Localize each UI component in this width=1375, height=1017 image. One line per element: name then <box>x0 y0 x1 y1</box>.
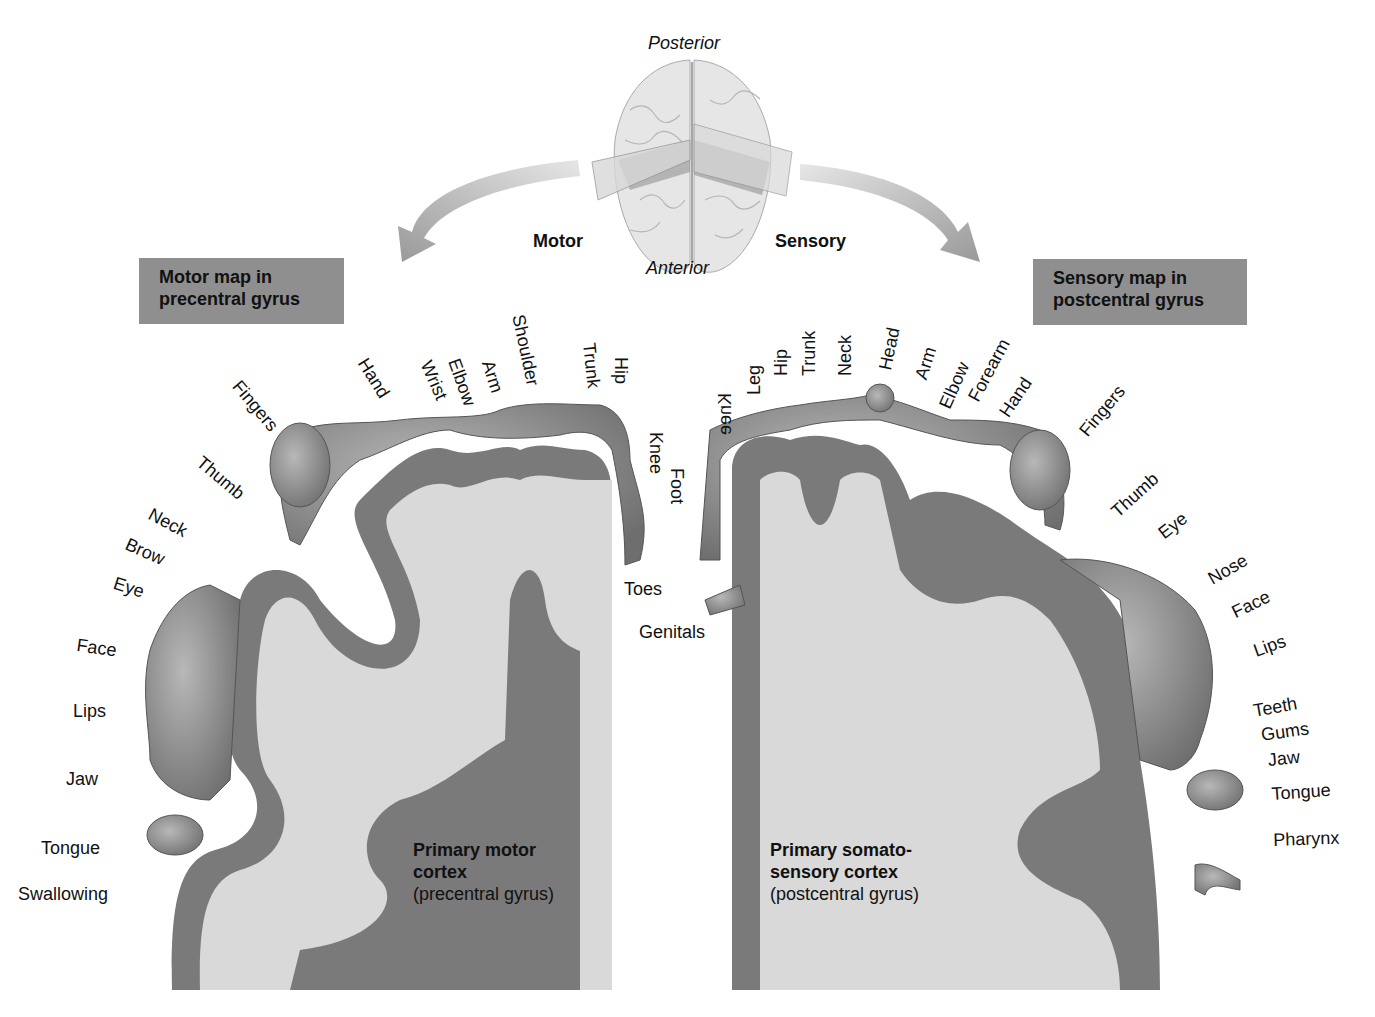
sensory-map-title-box: Sensory map in postcentral gyrus <box>1033 259 1247 325</box>
motor-label-swallowing: Swallowing <box>18 885 108 903</box>
motor-map-title-line2: precentral gyrus <box>159 288 330 310</box>
primary-somatosensory-cortex-label: Primary somato- sensory cortex (postcent… <box>770 839 919 905</box>
sensory-cortex-subtitle: (postcentral gyrus) <box>770 883 919 905</box>
motor-map-title-line1: Motor map in <box>159 266 330 288</box>
sensory-arrow-label: Sensory <box>775 232 846 250</box>
brain-top-view-icon <box>592 60 792 272</box>
motor-cortex-title-line1: Primary motor <box>413 839 554 861</box>
posterior-label: Posterior <box>648 34 720 52</box>
motor-label-lips: Lips <box>73 702 106 720</box>
motor-cortex-title-line2: cortex <box>413 861 554 883</box>
sensory-cortex-title-line1: Primary somato- <box>770 839 919 861</box>
sensory-cortex-section <box>732 436 1160 990</box>
motor-cortex-subtitle: (precentral gyrus) <box>413 883 554 905</box>
motor-label-tongue: Tongue <box>41 839 100 857</box>
sensory-label-pharynx: Pharynx <box>1273 829 1340 849</box>
sensory-label-leg: Leg <box>745 365 763 395</box>
primary-motor-cortex-label: Primary motor cortex (precentral gyrus) <box>413 839 554 905</box>
diagram-artwork <box>0 0 1375 1017</box>
motor-cortex-section <box>172 446 612 990</box>
motor-arrow-label: Motor <box>533 232 583 250</box>
sensory-map-title-line2: postcentral gyrus <box>1053 289 1233 311</box>
sensory-cortex-title-line2: sensory cortex <box>770 861 919 883</box>
somatotopic-map-diagram: Posterior Anterior Motor Sensory Motor m… <box>0 0 1375 1017</box>
anterior-label: Anterior <box>646 259 709 277</box>
sensory-map-title-line1: Sensory map in <box>1053 267 1233 289</box>
motor-label-knee: Knee <box>647 432 665 474</box>
motor-label-trunk: Trunk <box>580 342 603 389</box>
sensory-label-knee: Knee <box>716 393 734 435</box>
sensory-label-jaw: Jaw <box>1267 748 1301 769</box>
motor-label-jaw: Jaw <box>66 770 98 788</box>
sensory-label-genitals: Genitals <box>639 623 705 641</box>
sensory-label-hip: Hip <box>772 349 790 376</box>
motor-label-hip: Hip <box>612 357 630 384</box>
sensory-label-foot: Foot <box>668 468 686 504</box>
sensory-label-neck: Neck <box>836 335 854 376</box>
sensory-label-tongue: Tongue <box>1271 781 1331 803</box>
motor-map-title-box: Motor map in precentral gyrus <box>139 258 344 324</box>
motor-label-toes: Toes <box>624 580 662 598</box>
sensory-label-trunk: Trunk <box>800 331 818 376</box>
